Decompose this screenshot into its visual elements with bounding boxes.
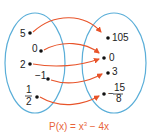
domain-fraction-num: 1 (26, 84, 32, 95)
codomain-fraction-num: 15 (114, 82, 126, 93)
arrow-neg1-to-3 (51, 74, 102, 83)
codomain-fraction-den: 8 (116, 93, 122, 104)
caption-rhs: − 4x (87, 121, 109, 132)
dot (106, 71, 110, 75)
mapping-diagram: 5 0 2 −1 1 2 105 0 3 − 15 8 P(x) = x3 − … (0, 0, 152, 139)
dot (102, 92, 106, 96)
domain-set-ellipse (5, 13, 65, 113)
domain-fraction-den: 2 (26, 96, 32, 107)
dot (106, 36, 110, 40)
codomain-label: 0 (109, 52, 115, 63)
domain-label: 5 (20, 28, 26, 39)
dot (102, 56, 106, 60)
domain-label: 0 (32, 43, 38, 54)
dot (28, 62, 32, 66)
arrow-5-to-105 (33, 18, 101, 32)
dot (39, 49, 43, 53)
dot (46, 77, 50, 81)
mapping-arrows (33, 18, 102, 105)
dot (35, 95, 39, 99)
codomain-set-ellipse (82, 13, 146, 113)
domain-label: −1 (35, 70, 47, 81)
arrow-0-to-0 (44, 44, 99, 53)
domain-label: 2 (20, 59, 26, 70)
caption-lhs: P(x) = x (49, 121, 84, 132)
function-caption: P(x) = x3 − 4x (49, 121, 109, 132)
codomain-points: 105 0 3 − 15 8 (102, 32, 129, 104)
codomain-label: 3 (112, 66, 118, 77)
domain-points: 5 0 2 −1 1 2 (20, 28, 50, 107)
dot (28, 31, 32, 35)
codomain-label: 105 (112, 32, 129, 43)
arrow-2-to-0 (33, 59, 99, 66)
